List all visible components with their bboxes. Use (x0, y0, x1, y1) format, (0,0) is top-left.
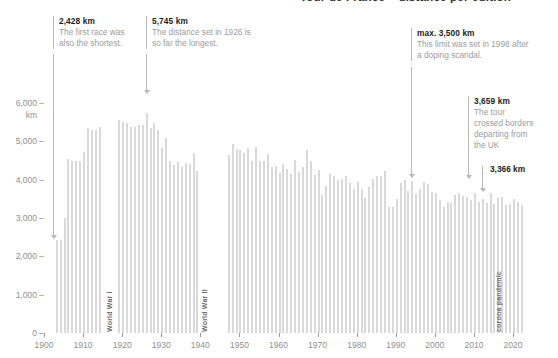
y-axis-unit: km (26, 110, 37, 120)
bar-2006 (458, 193, 460, 333)
bar-1925 (142, 125, 144, 333)
x-axis-label-2010: 2010 (464, 340, 483, 350)
callout-value: max. 3,500 km (417, 28, 529, 39)
x-axis-tick-1960 (279, 333, 280, 337)
bar-1928 (153, 123, 155, 333)
bar-2018 (505, 205, 507, 333)
y-axis: 6,000 –5,000 –4,000 –3,000 –2,000 –1,000… (0, 0, 44, 358)
bar-1967 (306, 150, 308, 333)
callout-text: This limit was set in 1998 after a dopin… (417, 39, 529, 61)
bar-1953 (251, 161, 253, 333)
bar-1996 (419, 189, 421, 333)
bar-1995 (415, 194, 417, 333)
x-axis-label-1990: 1990 (386, 340, 405, 350)
callout-arrow-2428km (53, 54, 54, 238)
bar-1963 (290, 174, 292, 333)
bar-1968 (310, 161, 312, 333)
bar-2012 (482, 199, 484, 333)
bar-1974 (333, 176, 335, 333)
bar-1976 (341, 179, 343, 333)
bar-1979 (353, 189, 355, 333)
bar-1935 (181, 167, 183, 333)
bar-1938 (193, 153, 195, 333)
bar-1923 (134, 127, 136, 333)
bar-1930 (161, 148, 163, 333)
bar-1969 (314, 175, 316, 333)
x-axis-label-1910: 1910 (74, 340, 93, 350)
x-axis-label-1930: 1930 (152, 340, 171, 350)
bar-1952 (247, 148, 249, 333)
callout-arrow-3659km (468, 140, 469, 178)
bar-1933 (173, 165, 175, 333)
x-axis-tick-1930 (161, 333, 162, 337)
bar-1961 (282, 164, 284, 333)
bar-2004 (450, 203, 452, 333)
bar-1950 (239, 150, 241, 333)
bar-1921 (126, 123, 128, 333)
callout-value: 5,745 km (152, 16, 252, 27)
bar-1981 (361, 189, 363, 333)
bar-1987 (384, 171, 386, 333)
x-axis-tick-2010 (474, 333, 475, 337)
bar-1980 (357, 182, 359, 333)
event-label-corona-pandemic: corona pandemic (495, 270, 502, 332)
bar-1960 (279, 173, 281, 333)
bar-1936 (185, 163, 187, 333)
x-axis-label-1980: 1980 (347, 340, 366, 350)
bar-1948 (232, 144, 234, 333)
bar-2002 (443, 207, 445, 333)
callout-arrow-5745km (146, 54, 147, 93)
bar-1912 (91, 130, 93, 333)
bar-2011 (478, 202, 480, 333)
bar-1959 (275, 166, 277, 333)
bar-1929 (157, 130, 159, 333)
callout-3659km: 3,659 km The tour crossed borders depart… (468, 96, 536, 151)
x-axis-tick-1970 (318, 333, 319, 337)
bar-1993 (407, 191, 409, 333)
bar-1920 (122, 122, 124, 333)
bar-1951 (243, 153, 245, 333)
bar-1934 (177, 162, 179, 333)
callout-text: The first race was also the shortest. (59, 27, 139, 49)
bar-1906 (67, 159, 69, 333)
x-axis-label-1970: 1970 (308, 340, 327, 350)
bar-1972 (325, 186, 327, 333)
event-label-world-war-i: World War I (106, 286, 113, 332)
bar-1957 (267, 154, 269, 333)
callout-max-3500km: max. 3,500 km This limit was set in 1998… (411, 28, 529, 61)
x-axis-label-1920: 1920 (113, 340, 132, 350)
bar-1982 (364, 198, 366, 333)
bar-1947 (228, 155, 230, 333)
bar-1905 (64, 218, 66, 333)
bar-1926 (146, 113, 148, 333)
bar-1988 (388, 207, 390, 333)
bar-1998 (427, 184, 429, 333)
bar-1999 (431, 192, 433, 333)
bar-2013 (486, 203, 488, 333)
bar-1958 (271, 167, 273, 333)
event-label-world-war-ii: World War II (201, 282, 208, 332)
bar-2019 (509, 204, 511, 333)
bar-1932 (169, 161, 171, 333)
bar-1913 (95, 130, 97, 333)
bar-1989 (392, 207, 394, 333)
callout-5745km: 5,745 km The distance set in 1926 is so … (146, 16, 252, 49)
bar-1964 (294, 160, 296, 333)
bar-1907 (71, 161, 73, 333)
callout-value: 3,659 km (474, 96, 536, 107)
bar-2014 (490, 193, 492, 333)
bar-1919 (118, 120, 120, 333)
x-axis-tick-1920 (122, 333, 123, 337)
bar-1949 (236, 149, 238, 333)
x-axis-tick-1910 (83, 333, 84, 337)
bar-1937 (189, 164, 191, 333)
bar-1904 (60, 240, 62, 333)
bar-1986 (380, 176, 382, 333)
x-axis-tick-1940 (200, 333, 201, 337)
bar-1954 (255, 147, 257, 333)
bar-2022 (521, 205, 523, 333)
callout-3366km: 3,366 km (490, 164, 525, 174)
bar-1984 (372, 179, 374, 333)
bar-1922 (130, 127, 132, 333)
bar-2010 (474, 193, 476, 333)
